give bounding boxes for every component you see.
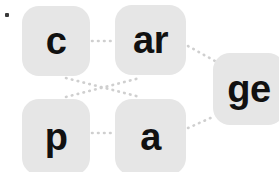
connector-a-ge <box>188 116 215 128</box>
word-fragment-diagram: c ar ge p a <box>0 0 279 172</box>
tile-label-ar: ar <box>133 21 168 59</box>
tile-p[interactable]: p <box>22 99 90 172</box>
tile-label-ge: ge <box>227 70 270 108</box>
connector-c-a <box>66 78 140 97</box>
tile-ar[interactable]: ar <box>115 5 186 75</box>
connector-p-ar <box>66 78 140 97</box>
connector-ar-ge <box>188 46 215 61</box>
tile-c[interactable]: c <box>22 6 90 76</box>
tile-label-a: a <box>140 118 161 156</box>
corner-dot-marker <box>5 13 9 17</box>
tile-a[interactable]: a <box>115 99 186 172</box>
tile-label-c: c <box>46 22 67 60</box>
tile-label-p: p <box>45 118 68 156</box>
tile-ge[interactable]: ge <box>213 53 279 125</box>
